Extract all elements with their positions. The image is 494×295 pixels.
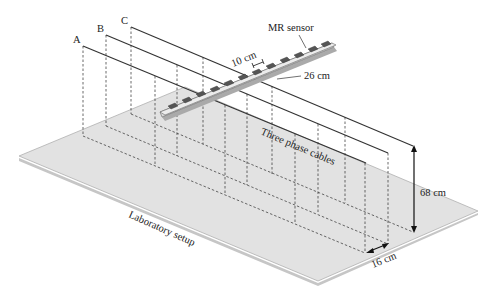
height-label: 68 cm xyxy=(420,187,446,198)
phase-label-a: A xyxy=(73,34,81,45)
laboratory-setup-diagram: A B C MR sensor 10 cm 26 cm xyxy=(0,0,494,295)
sensor-offset-label: 26 cm xyxy=(304,70,330,81)
ground-plate xyxy=(19,87,478,286)
phase-label-c: C xyxy=(121,15,128,26)
phase-label-b: B xyxy=(97,23,104,34)
sensor-offset-leader xyxy=(277,76,301,79)
mr-sensor-label: MR sensor xyxy=(268,22,314,33)
mr-sensor-leader xyxy=(299,35,306,48)
